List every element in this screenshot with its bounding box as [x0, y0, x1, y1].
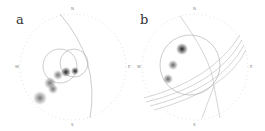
svg-text:E: E — [250, 64, 253, 69]
svg-text:E: E — [128, 64, 131, 69]
stereonet-panel-a: a N S W E — [0, 0, 132, 131]
stereonet-a: N S W E — [0, 0, 132, 131]
stereonet-b: N S W E — [132, 0, 265, 131]
svg-text:S: S — [193, 122, 196, 127]
svg-text:S: S — [71, 122, 74, 127]
compass-n-a: N — [71, 6, 74, 11]
svg-text:W: W — [137, 64, 141, 69]
svg-text:N: N — [193, 6, 196, 11]
stereonet-panel-b: b N S W E — [132, 0, 264, 131]
svg-text:W: W — [15, 64, 19, 69]
